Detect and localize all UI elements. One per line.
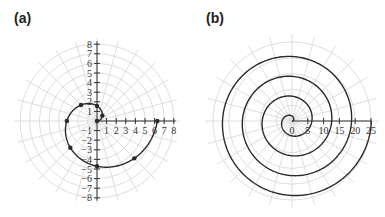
- x-tick-label: 8: [171, 125, 176, 136]
- data-point: [95, 119, 99, 123]
- data-point: [79, 103, 83, 107]
- panel-label-a: (a): [14, 10, 31, 26]
- x-tick-label: 5: [143, 125, 148, 136]
- x-tick-label: 7: [162, 125, 167, 136]
- data-point: [155, 119, 159, 123]
- panel-label-b: (b): [206, 10, 224, 26]
- polar-plot-a: 87654321−1−2−3−4−5−6−7−812345678: [0, 0, 192, 217]
- x-tick-label: 4: [133, 125, 138, 136]
- x-tick-label: 15: [334, 125, 344, 136]
- data-point: [68, 145, 72, 149]
- y-tick-label: 1: [87, 106, 92, 117]
- y-tick-label: −8: [81, 192, 92, 203]
- x-tick-label: 10: [319, 125, 329, 136]
- data-point: [132, 156, 136, 160]
- polar-plot-b: 0510152025: [192, 0, 385, 217]
- panel-b: 0510152025 (b): [192, 0, 385, 217]
- data-point: [95, 164, 99, 168]
- panel-a: 87654321−1−2−3−4−5−6−7−812345678 (a): [0, 0, 192, 217]
- x-tick-label: 0: [290, 125, 295, 136]
- x-tick-label: 2: [114, 125, 119, 136]
- data-point: [95, 104, 99, 108]
- x-tick-label: 3: [123, 125, 128, 136]
- x-tick-label: 1: [104, 125, 109, 136]
- data-point: [100, 113, 104, 117]
- data-point: [65, 119, 69, 123]
